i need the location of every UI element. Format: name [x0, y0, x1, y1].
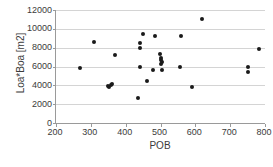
- x-tick-label: 200: [40, 126, 70, 138]
- data-point: [160, 60, 164, 64]
- data-point: [246, 70, 250, 74]
- data-point: [200, 17, 204, 21]
- data-point: [78, 66, 82, 70]
- gridline: [56, 10, 265, 11]
- gridline: [56, 85, 265, 86]
- y-tick-label: 12000: [16, 6, 52, 15]
- y-tick-mark: [53, 67, 56, 68]
- data-point: [92, 40, 96, 44]
- data-point: [190, 85, 194, 89]
- x-axis-tick-labels: 200300400500600700800: [55, 126, 265, 138]
- data-point: [246, 65, 250, 69]
- data-point: [153, 34, 157, 38]
- data-point: [257, 47, 261, 51]
- data-point: [138, 46, 142, 50]
- y-tick-label: 4000: [16, 81, 52, 90]
- data-point: [145, 79, 149, 83]
- y-tick-label: 8000: [16, 43, 52, 52]
- y-tick-mark: [53, 29, 56, 30]
- gridline: [56, 29, 265, 30]
- data-point: [179, 34, 183, 38]
- y-tick-mark: [53, 85, 56, 86]
- x-tick-label: 700: [214, 126, 244, 138]
- scatter-chart: Loa*Boa [m2] 020004000600080001000012000…: [0, 0, 273, 167]
- y-tick-label: 6000: [16, 62, 52, 71]
- data-point: [151, 68, 155, 72]
- data-point: [160, 68, 164, 72]
- data-point: [158, 52, 162, 56]
- x-tick-label: 600: [179, 126, 209, 138]
- x-axis-label: POB: [55, 140, 265, 152]
- x-tick-label: 400: [110, 126, 140, 138]
- data-point: [113, 53, 117, 57]
- y-tick-label: 2000: [16, 100, 52, 109]
- y-tick-mark: [53, 104, 56, 105]
- x-tick-label: 300: [75, 126, 105, 138]
- y-axis-tick-labels: 020004000600080001000012000: [16, 10, 52, 124]
- x-tick-label: 800: [249, 126, 273, 138]
- y-tick-label: 10000: [16, 24, 52, 33]
- data-point: [138, 41, 142, 45]
- data-point: [138, 65, 142, 69]
- gridline: [56, 104, 265, 105]
- y-tick-mark: [53, 10, 56, 11]
- y-tick-mark: [53, 48, 56, 49]
- gridline: [56, 48, 265, 49]
- data-point: [178, 65, 182, 69]
- data-point: [141, 32, 145, 36]
- x-tick-label: 500: [145, 126, 175, 138]
- data-point: [136, 96, 140, 100]
- plot-area: [55, 10, 265, 124]
